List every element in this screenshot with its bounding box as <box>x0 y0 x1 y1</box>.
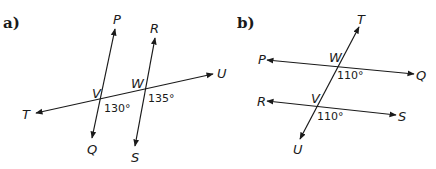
diagram-b: b) T P Q R S U W V 110° 110° <box>237 12 426 157</box>
point-label-q: Q <box>87 142 97 157</box>
line-pq <box>92 29 115 138</box>
diagram-a: a) P R U T Q S V W 130° 135° <box>3 12 227 165</box>
point-label-r: R <box>257 94 266 109</box>
angle-label-w: 110° <box>337 69 364 82</box>
point-label-v: V <box>92 86 102 101</box>
point-label-u: U <box>293 142 303 157</box>
angle-label-v: 130° <box>104 102 131 115</box>
point-label-t: T <box>357 12 366 27</box>
angle-label-v: 110° <box>317 110 344 123</box>
angle-label-w: 135° <box>148 92 175 105</box>
point-label-t: T <box>22 107 31 122</box>
point-label-w: W <box>329 50 343 65</box>
part-label-b: b) <box>237 14 255 32</box>
diagram-canvas: a) P R U T Q S V W 130° 135° b) T P Q R … <box>0 0 436 169</box>
point-label-r: R <box>150 21 159 36</box>
point-label-p: P <box>258 52 266 67</box>
point-label-w: W <box>131 76 145 91</box>
part-label-a: a) <box>3 14 20 32</box>
point-label-s: S <box>398 109 406 124</box>
point-label-u: U <box>217 66 227 81</box>
point-label-v: V <box>311 91 321 106</box>
point-label-s: S <box>131 150 139 165</box>
point-label-q: Q <box>416 68 426 83</box>
point-label-p: P <box>113 12 121 27</box>
